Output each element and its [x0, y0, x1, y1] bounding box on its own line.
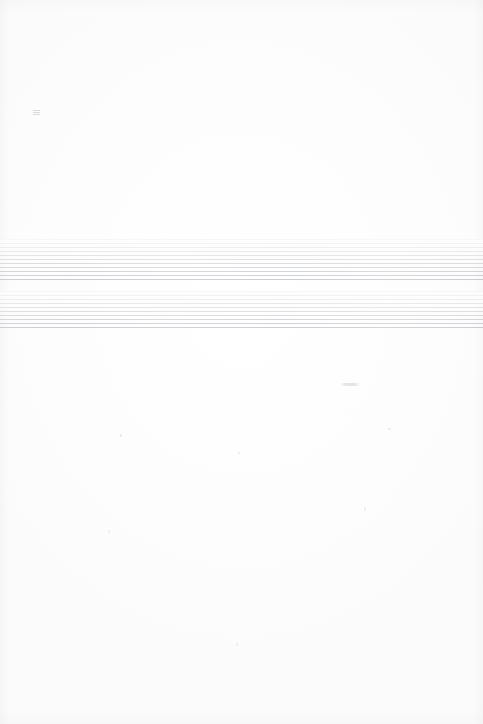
striped-band-upper	[0, 239, 483, 281]
striped-band-lower	[0, 291, 483, 330]
scanned-page	[0, 0, 483, 724]
stripe-sweep-upper	[0, 239, 483, 281]
stripe-sweep-lower	[0, 291, 483, 330]
paper-grain-texture	[0, 0, 483, 724]
